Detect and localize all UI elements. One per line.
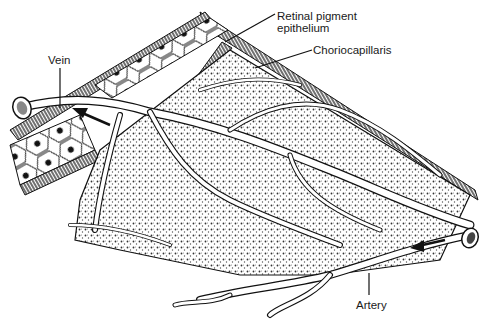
choroid-illustration: [0, 0, 493, 330]
label-artery: Artery: [356, 299, 387, 311]
label-rpe-line2: epithelium: [277, 22, 357, 34]
label-vein: Vein: [48, 54, 70, 66]
label-choriocapillaris: Choriocapillaris: [313, 44, 392, 56]
artery-opening: [459, 226, 481, 250]
label-retinal-pigment-epithelium: Retinal pigment epithelium: [277, 10, 357, 34]
label-rpe-line1: Retinal pigment: [277, 10, 357, 22]
